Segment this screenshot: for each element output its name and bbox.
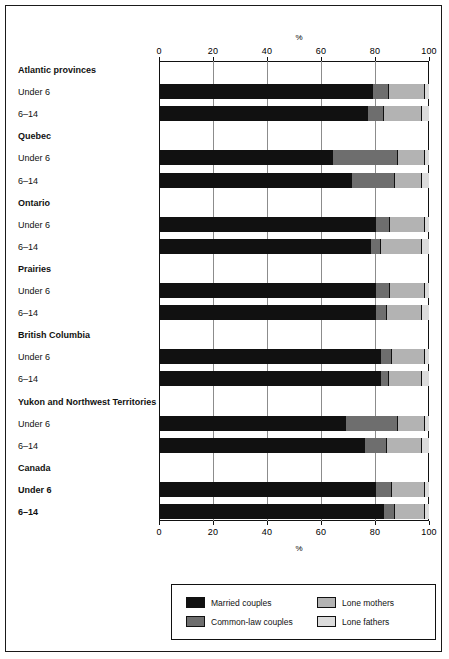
bar-segment-lonefather xyxy=(421,438,429,453)
bar-1-1 xyxy=(159,173,429,188)
bar-segment-lonefather xyxy=(421,106,429,121)
bar-segment-lonefather xyxy=(424,283,429,298)
x-tick-label-60: 60 xyxy=(309,46,333,56)
row-label-5-0: Under 6 xyxy=(18,419,50,429)
bar-segment-lonemother xyxy=(397,416,424,431)
x-tick-mark-100 xyxy=(429,57,430,61)
bar-segment-lonefather xyxy=(421,173,429,188)
bar-segment-lonemother xyxy=(394,173,421,188)
group-label-quebec: Quebec xyxy=(18,131,51,141)
x-tick-label-60: 60 xyxy=(309,527,333,537)
group-label-yukon-and-northwest-territories: Yukon and Northwest Territories xyxy=(18,397,156,407)
row-label-3-0: Under 6 xyxy=(18,286,50,296)
bar-6-1 xyxy=(159,504,429,519)
row-label-column: Atlantic provincesUnder 66–14QuebecUnder… xyxy=(18,61,163,521)
x-tick-label-0: 0 xyxy=(147,46,171,56)
x-tick-label-100: 100 xyxy=(417,46,441,56)
bar-segment-commonlaw xyxy=(375,305,386,320)
bar-3-0 xyxy=(159,283,429,298)
bar-segment-married xyxy=(159,371,380,386)
row-label-0-0: Under 6 xyxy=(18,87,50,97)
bar-segment-married xyxy=(159,217,375,232)
row-label-2-1: 6–14 xyxy=(18,242,38,252)
x-tick-label-20: 20 xyxy=(201,527,225,537)
legend-swatch-icon xyxy=(317,597,336,608)
row-label-0-1: 6–14 xyxy=(18,109,38,119)
bar-5-1 xyxy=(159,438,429,453)
group-label-prairies: Prairies xyxy=(18,264,51,274)
bar-segment-lonemother xyxy=(386,305,421,320)
legend-item-common-law-couples[interactable]: Common-law couples xyxy=(186,616,293,627)
legend-item-lone-mothers[interactable]: Lone mothers xyxy=(317,597,394,608)
bar-segment-lonemother xyxy=(386,438,421,453)
bar-segment-lonefather xyxy=(424,416,429,431)
bar-1-0 xyxy=(159,150,429,165)
x-tick-mark-0 xyxy=(159,521,160,525)
row-label-4-1: 6–14 xyxy=(18,374,38,384)
bar-segment-lonemother xyxy=(391,349,423,364)
bar-6-0 xyxy=(159,482,429,497)
bar-segment-married xyxy=(159,482,375,497)
bar-segment-married xyxy=(159,106,367,121)
legend-item-married-couples[interactable]: Married couples xyxy=(186,597,271,608)
bar-segment-commonlaw xyxy=(364,438,386,453)
row-label-4-0: Under 6 xyxy=(18,352,50,362)
bar-3-1 xyxy=(159,305,429,320)
bar-4-1 xyxy=(159,371,429,386)
bar-0-0 xyxy=(159,84,429,99)
legend-label: Lone fathers xyxy=(342,617,389,627)
bar-segment-lonefather xyxy=(424,217,429,232)
x-tick-label-80: 80 xyxy=(363,527,387,537)
bar-segment-married xyxy=(159,349,380,364)
bar-segment-married xyxy=(159,283,375,298)
x-tick-mark-40 xyxy=(267,521,268,525)
x-tick-label-40: 40 xyxy=(255,46,279,56)
row-label-6-1: 6–14 xyxy=(18,507,38,517)
bar-segment-commonlaw xyxy=(332,150,397,165)
bar-4-0 xyxy=(159,349,429,364)
bar-segment-married xyxy=(159,305,375,320)
bar-segment-lonefather xyxy=(421,305,429,320)
bar-segment-commonlaw xyxy=(375,283,389,298)
legend-label: Common-law couples xyxy=(211,617,293,627)
row-label-5-1: 6–14 xyxy=(18,441,38,451)
bar-segment-lonefather xyxy=(424,349,429,364)
x-tick-label-0: 0 xyxy=(147,527,171,537)
bar-segment-lonemother xyxy=(380,239,421,254)
legend-swatch-icon xyxy=(186,597,205,608)
bar-segment-lonemother xyxy=(389,217,424,232)
group-label-canada: Canada xyxy=(18,463,51,473)
row-label-1-0: Under 6 xyxy=(18,153,50,163)
bar-segment-commonlaw xyxy=(372,84,388,99)
bar-segment-lonemother xyxy=(397,150,424,165)
group-label-ontario: Ontario xyxy=(18,198,50,208)
bar-2-1 xyxy=(159,239,429,254)
plot-area xyxy=(159,61,429,521)
legend-label: Married couples xyxy=(211,598,271,608)
axis-label-bottom: % xyxy=(289,544,309,553)
group-label-atlantic-provinces: Atlantic provinces xyxy=(18,65,96,75)
bar-segment-commonlaw xyxy=(345,416,396,431)
bar-segment-lonefather xyxy=(424,504,429,519)
bar-segment-commonlaw xyxy=(351,173,394,188)
bar-segment-married xyxy=(159,150,332,165)
bar-2-0 xyxy=(159,217,429,232)
x-tick-mark-20 xyxy=(213,521,214,525)
bar-segment-lonemother xyxy=(388,371,420,386)
bar-segment-commonlaw xyxy=(367,106,383,121)
bar-segment-married xyxy=(159,239,370,254)
legend-item-lone-fathers[interactable]: Lone fathers xyxy=(317,616,389,627)
axis-label-top: % xyxy=(289,33,309,42)
bar-segment-married xyxy=(159,173,351,188)
bar-segment-lonemother xyxy=(394,504,424,519)
legend: Married couplesCommon-law couplesLone mo… xyxy=(171,584,436,640)
bar-segment-commonlaw xyxy=(380,371,388,386)
bar-segment-lonemother xyxy=(383,106,421,121)
legend-swatch-icon xyxy=(317,616,336,627)
bar-segment-lonemother xyxy=(391,482,423,497)
row-label-3-1: 6–14 xyxy=(18,308,38,318)
x-tick-label-100: 100 xyxy=(417,527,441,537)
group-label-british-columbia: British Columbia xyxy=(18,330,90,340)
row-label-2-0: Under 6 xyxy=(18,220,50,230)
bar-segment-commonlaw xyxy=(383,504,394,519)
